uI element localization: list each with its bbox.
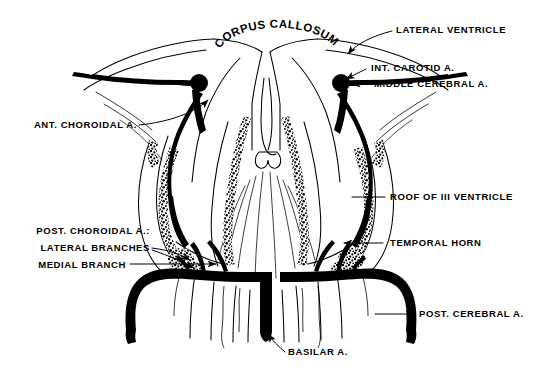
brain-vasculature-diagram: CORPUS CALLOSUM (0, 0, 550, 380)
label-medial-branch: MEDIAL BRANCH (8, 260, 126, 270)
corpus-callosum-label: CORPUS CALLOSUM (212, 18, 341, 50)
label-lateral-branches: LATERAL BRANCHES (8, 243, 150, 253)
label-middle-cerebral-artery: MIDDLE CEREBRAL A. (374, 79, 488, 89)
label-lateral-ventricle: LATERAL VENTRICLE (396, 25, 506, 35)
label-ant-choroidal-artery: ANT. CHOROIDAL A. (22, 120, 137, 130)
label-roof-third-ventricle: ROOF OF III VENTRICLE (390, 192, 513, 202)
choroid-plexus-stipple (148, 116, 385, 275)
label-temporal-horn: TEMPORAL HORN (390, 238, 482, 248)
roman-numeral-three: III (441, 191, 451, 202)
label-post-cerebral-artery: POST. CEREBRAL A. (419, 309, 524, 319)
label-basilar-artery: BASILAR A. (288, 347, 348, 357)
roof-third-suffix: VENTRICLE (450, 191, 512, 202)
label-post-choroidal-artery: POST. CHOROIDAL A.: (8, 226, 150, 236)
leader-basilar (268, 334, 285, 352)
arteries (72, 72, 468, 344)
corpus-callosum-title: CORPUS CALLOSUM (212, 18, 341, 50)
leader-int-carotid (346, 69, 366, 79)
leader-lateral-ventricle (348, 31, 392, 54)
label-int-carotid-artery: INT. CAROTID A. (371, 63, 455, 73)
svg-text:CORPUS CALLOSUM: CORPUS CALLOSUM (212, 18, 341, 50)
roof-third-prefix: ROOF OF (390, 191, 441, 202)
